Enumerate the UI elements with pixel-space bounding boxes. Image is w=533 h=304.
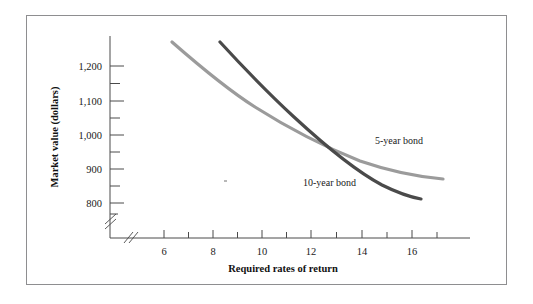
series-label-10-year-bond: 10-year bond (303, 177, 356, 188)
xtick-label-10: 10 (257, 246, 268, 257)
xtick-label-6: 6 (161, 246, 166, 257)
ytick-label-1100: 1,100 (78, 96, 102, 107)
y-axis-title: Market value (dollars) (49, 86, 61, 187)
x-axis-ticks (164, 230, 437, 238)
x-axis-title: Required rates of return (228, 263, 338, 274)
ytick-label-1000: 1,000 (78, 130, 102, 141)
curve-5-year-bond (172, 42, 443, 179)
ytick-label-900: 900 (86, 164, 102, 175)
xtick-label-14: 14 (357, 246, 368, 257)
ytick-label-1200: 1,200 (78, 61, 102, 72)
ytick-label-800: 800 (86, 198, 102, 209)
print-speck (224, 180, 227, 182)
figure-root: 1,200 1,100 1,000 900 800 6 8 10 12 14 1… (0, 0, 533, 304)
xtick-label-8: 8 (210, 246, 215, 257)
series-label-5-year-bond: 5-year bond (375, 135, 423, 146)
curve-10-year-bond (220, 42, 421, 199)
y-axis-ticks (110, 66, 124, 214)
chart-plot-area: 1,200 1,100 1,000 900 800 6 8 10 12 14 1… (0, 0, 533, 304)
xtick-label-16: 16 (407, 246, 418, 257)
xtick-label-12: 12 (306, 246, 317, 257)
